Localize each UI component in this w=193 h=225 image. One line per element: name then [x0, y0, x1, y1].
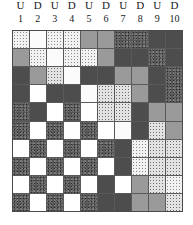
grid-cell-r5-c10	[166, 103, 182, 120]
grid-cell-r4-c4	[64, 85, 80, 102]
grid-cell-r10-c3	[47, 194, 63, 211]
grid-cell-r1-c7	[115, 31, 131, 48]
grid-cell-r5-c8	[132, 103, 148, 120]
grid-cell-r8-c3	[47, 158, 63, 175]
header-number-6: 6	[97, 14, 114, 26]
grid-cell-r9-c3	[47, 176, 63, 193]
grid-cell-r5-c5	[81, 103, 97, 120]
header-number-9: 9	[149, 14, 166, 26]
header-letter-row: UDUDUDUDUD	[12, 0, 183, 14]
grid-cell-r8-c7	[115, 158, 131, 175]
header-number-2: 2	[29, 14, 46, 26]
grid-cell-r9-c6	[98, 176, 114, 193]
heatmap-grid	[13, 31, 182, 211]
grid-cell-r4-c9	[149, 85, 165, 102]
column-header: UDUDUDUDUD 12345678910	[12, 0, 183, 26]
grid-cell-r2-c2	[30, 49, 46, 66]
grid-cell-r2-c1	[13, 49, 29, 66]
grid-cell-r8-c10	[166, 158, 182, 175]
grid-cell-r3-c3	[47, 67, 63, 84]
grid-cell-r7-c7	[115, 140, 131, 157]
grid-cell-r6-c5	[81, 122, 97, 139]
header-number-8: 8	[132, 14, 149, 26]
grid-cell-r10-c10	[166, 194, 182, 211]
header-number-7: 7	[115, 14, 132, 26]
grid-cell-r3-c1	[13, 67, 29, 84]
grid-cell-r4-c6	[98, 85, 114, 102]
grid-cell-r6-c3	[47, 122, 63, 139]
grid-cell-r4-c3	[47, 85, 63, 102]
header-letter-1: U	[12, 0, 29, 14]
grid-cell-r8-c9	[149, 158, 165, 175]
header-letter-6: D	[97, 0, 114, 14]
grid-cell-r4-c8	[132, 85, 148, 102]
grid-cell-r10-c1	[13, 194, 29, 211]
grid-cell-r5-c9	[149, 103, 165, 120]
heatmap-grid-border	[12, 30, 183, 212]
grid-cell-r2-c6	[98, 49, 114, 66]
header-letter-7: U	[115, 0, 132, 14]
grid-cell-r10-c5	[81, 194, 97, 211]
grid-cell-r1-c6	[98, 31, 114, 48]
grid-cell-r9-c1	[13, 176, 29, 193]
header-letter-10: D	[166, 0, 183, 14]
grid-cell-r1-c10	[166, 31, 182, 48]
grid-cell-r9-c7	[115, 176, 131, 193]
grid-cell-r6-c6	[98, 122, 114, 139]
grid-cell-r6-c7	[115, 122, 131, 139]
grid-cell-r6-c1	[13, 122, 29, 139]
grid-cell-r8-c2	[30, 158, 46, 175]
header-letter-3: U	[46, 0, 63, 14]
header-letter-4: D	[63, 0, 80, 14]
grid-cell-r7-c3	[47, 140, 63, 157]
grid-cell-r5-c6	[98, 103, 114, 120]
grid-cell-r7-c1	[13, 140, 29, 157]
header-number-10: 10	[166, 14, 183, 26]
grid-cell-r3-c8	[132, 67, 148, 84]
grid-cell-r4-c7	[115, 85, 131, 102]
grid-cell-r10-c9	[149, 194, 165, 211]
grid-cell-r5-c7	[115, 103, 131, 120]
grid-cell-r4-c2	[30, 85, 46, 102]
grid-cell-r5-c4	[64, 103, 80, 120]
grid-cell-r8-c4	[64, 158, 80, 175]
grid-cell-r9-c5	[81, 176, 97, 193]
grid-cell-r3-c7	[115, 67, 131, 84]
grid-cell-r6-c2	[30, 122, 46, 139]
grid-cell-r9-c10	[166, 176, 182, 193]
grid-cell-r6-c4	[64, 122, 80, 139]
grid-cell-r8-c8	[132, 158, 148, 175]
grid-cell-r10-c7	[115, 194, 131, 211]
grid-cell-r2-c7	[115, 49, 131, 66]
grid-cell-r9-c4	[64, 176, 80, 193]
grid-cell-r6-c8	[132, 122, 148, 139]
grid-cell-r6-c9	[149, 122, 165, 139]
grid-cell-r7-c4	[64, 140, 80, 157]
header-number-4: 4	[63, 14, 80, 26]
grid-cell-r7-c9	[149, 140, 165, 157]
grid-cell-r8-c5	[81, 158, 97, 175]
grid-cell-r1-c4	[64, 31, 80, 48]
grid-cell-r9-c9	[149, 176, 165, 193]
grid-cell-r9-c2	[30, 176, 46, 193]
grid-cell-r10-c6	[98, 194, 114, 211]
grid-cell-r6-c10	[166, 122, 182, 139]
grid-cell-r2-c4	[64, 49, 80, 66]
grid-cell-r5-c1	[13, 103, 29, 120]
header-number-1: 1	[12, 14, 29, 26]
grid-cell-r7-c6	[98, 140, 114, 157]
grid-cell-r10-c4	[64, 194, 80, 211]
grid-cell-r8-c1	[13, 158, 29, 175]
grid-cell-r3-c6	[98, 67, 114, 84]
grid-cell-r2-c9	[149, 49, 165, 66]
grid-cell-r5-c3	[47, 103, 63, 120]
grid-cell-r7-c8	[132, 140, 148, 157]
grid-cell-r1-c2	[30, 31, 46, 48]
grid-cell-r5-c2	[30, 103, 46, 120]
grid-cell-r7-c2	[30, 140, 46, 157]
grid-cell-r9-c8	[132, 176, 148, 193]
grid-cell-r10-c2	[30, 194, 46, 211]
grid-cell-r7-c10	[166, 140, 182, 157]
grid-cell-r2-c8	[132, 49, 148, 66]
grid-cell-r1-c8	[132, 31, 148, 48]
